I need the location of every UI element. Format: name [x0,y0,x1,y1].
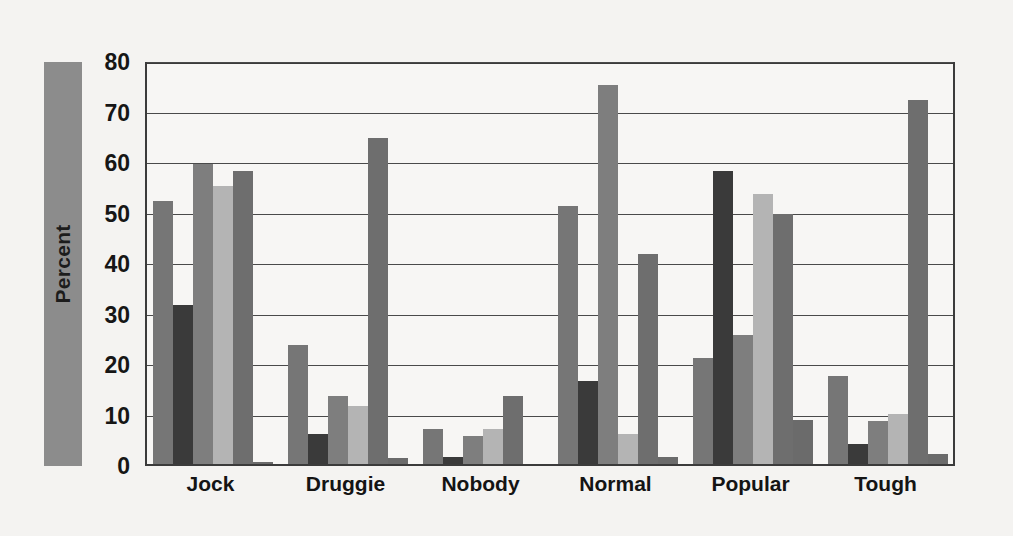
y-tick-label: 20 [104,354,130,377]
bar [658,457,678,464]
bar [233,171,253,464]
bar [888,414,908,465]
y-tick-label: 70 [104,101,130,124]
bar [483,429,503,464]
bar [213,186,233,464]
bar [598,85,618,464]
y-tick-label: 80 [104,51,130,74]
bar [793,420,813,464]
bar [753,194,773,464]
plot-area [145,62,955,466]
bar [928,454,948,464]
bar [308,434,328,464]
bar [868,421,888,464]
bar [388,458,408,464]
y-tick-label: 10 [104,404,130,427]
bar [253,462,273,464]
bar-group [423,64,543,464]
bar-group [693,64,813,464]
bar [328,396,348,464]
bar-group [828,64,948,464]
bars-layer [147,64,953,464]
bar [503,396,523,464]
bar [848,444,868,464]
y-tick-label: 60 [104,152,130,175]
gridline [147,62,953,63]
y-axis-title: Percent [51,224,75,303]
x-tick-label: Popular [711,472,789,496]
x-tick-label: Tough [854,472,917,496]
bar [173,305,193,464]
bar [693,358,713,464]
bar [558,206,578,464]
y-tick-label: 30 [104,303,130,326]
bar [828,376,848,464]
x-tick-label: Nobody [441,472,519,496]
y-tick-label: 0 [117,455,130,478]
bar [423,429,443,464]
bar [638,254,658,464]
bar-group [288,64,408,464]
bar [463,436,483,464]
bar [773,214,793,464]
bar [713,171,733,464]
y-axis-tick-labels: 01020304050607080 [86,62,138,466]
bar [348,406,368,464]
bar [578,381,598,464]
bar [193,164,213,464]
chart-figure: Percent 01020304050607080 JockDruggieNob… [0,0,1013,536]
y-axis-title-block: Percent [44,62,82,466]
x-tick-label: Jock [187,472,235,496]
bar [733,335,753,464]
x-tick-label: Normal [579,472,651,496]
bar-group [153,64,273,464]
bar [908,100,928,464]
bar-group [558,64,678,464]
y-tick-label: 50 [104,202,130,225]
bar [153,201,173,464]
x-axis-tick-labels: JockDruggieNobodyNormalPopularTough [145,472,955,512]
bar [618,434,638,464]
bar [368,138,388,464]
bar [443,457,463,464]
y-tick-label: 40 [104,253,130,276]
bar [288,345,308,464]
x-tick-label: Druggie [306,472,385,496]
